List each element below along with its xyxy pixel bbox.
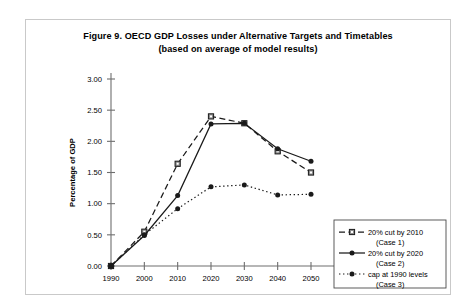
axes-group: 0.000.501.001.502.002.503.00199020002010… [68,73,339,283]
data-point-marker [142,232,147,237]
y-tick-label: 0.50 [87,231,102,240]
y-tick-label: 3.00 [87,75,102,84]
series-line [111,116,311,266]
series-group [108,114,313,269]
legend-group: 20% cut by 2010(Case 1)20% cut by 2020(C… [334,220,446,289]
y-tick-label: 2.50 [87,106,102,115]
series-line [111,185,311,266]
data-point-marker-center [177,163,179,165]
legend-item-label: 20% cut by 2010 [368,228,423,237]
data-point-marker [309,192,314,197]
data-point-marker [209,184,214,189]
y-tick-label: 1.50 [87,168,102,177]
data-point-marker [175,193,180,198]
x-tick-label: 2010 [169,274,186,283]
data-point-marker-center [210,115,212,117]
x-tick-label: 2000 [136,274,153,283]
data-point-marker [242,182,247,187]
data-point-marker [175,206,180,211]
figure-frame: Figure 9. OECD GDP Losses under Alternat… [25,19,451,295]
data-point-marker [275,192,280,197]
data-point-marker [242,121,247,126]
chart-plot: 0.000.501.001.502.002.503.00199020002010… [26,20,452,296]
legend-item-sublabel: (Case 3) [376,280,404,289]
x-tick-label: 2030 [236,274,253,283]
y-tick-label: 2.00 [87,137,102,146]
legend-sample-marker [350,272,355,277]
data-point-marker [309,159,314,164]
data-point-marker-center [310,172,312,174]
x-tick-label: 2020 [203,274,220,283]
legend-sample-marker [350,251,355,256]
x-tick-label: 1990 [103,274,120,283]
x-tick-label: 2040 [269,274,286,283]
legend-item-label: 20% cut by 2020 [368,249,423,258]
legend-sample-marker-center [351,231,353,233]
legend-item-label: cap at 1990 levels [368,270,428,279]
legend-item-sublabel: (Case 2) [376,259,404,268]
data-point-marker [109,264,114,269]
legend-item-sublabel: (Case 1) [376,238,404,247]
series-line [111,123,311,266]
data-point-marker [209,121,214,126]
y-tick-label: 1.00 [87,199,102,208]
y-tick-label: 0.00 [87,262,102,271]
y-axis-title: Percentage of GDP [68,138,77,207]
x-tick-label: 2050 [303,274,320,283]
data-point-marker [275,146,280,151]
